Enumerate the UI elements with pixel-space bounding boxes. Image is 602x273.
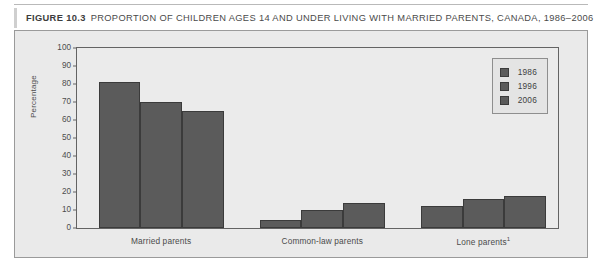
plot-inner: Percentage 100 90 80 70 60 50 40 30 20 [77,48,558,228]
y-tick-label: 20 [41,188,77,196]
bar-1996[interactable] [463,199,505,228]
bar-1996[interactable] [301,210,343,228]
bar-groups: Married parents Common-law parents [77,48,558,228]
x-axis-label-text: Lone parents [457,237,507,247]
x-axis-label-footnote: 1 [507,236,511,242]
x-axis-label-lone-parents: Lone parents1 [421,236,546,247]
bar-group-married-parents: Married parents [99,48,224,228]
bar-group-common-law-parents: Common-law parents [260,48,385,228]
y-tick-label: 40 [41,152,77,160]
legend-label: 1986 [518,67,537,77]
bar-2006[interactable] [182,111,224,228]
y-tick-label: 80 [41,80,77,88]
legend-item-1986[interactable]: 1986 [500,65,537,79]
bar-2006[interactable] [343,203,385,228]
y-tick-label: 50 [41,134,77,142]
x-axis-label-text: Married parents [131,236,191,246]
legend-swatch-icon [500,82,509,91]
legend-item-2006[interactable]: 2006 [500,93,537,107]
x-axis-label-married-parents: Married parents [99,236,224,246]
bar-1986[interactable] [99,82,141,228]
top-divider [14,4,588,5]
x-axis-label-common-law-parents: Common-law parents [260,236,385,246]
legend-label: 2006 [518,95,537,105]
chart-panel: Percentage 100 90 80 70 60 50 40 30 20 [14,30,588,258]
figure-number: FIGURE 10.3 [26,13,86,23]
figure-container: FIGURE 10.3 PROPORTION OF CHILDREN AGES … [0,0,602,273]
legend-item-1996[interactable]: 1996 [500,79,537,93]
y-tick-label: 90 [41,62,77,70]
y-tick-label: 100 [41,44,77,52]
bar-1986[interactable] [260,220,302,228]
y-tick-label: 0 [41,224,77,232]
x-axis-label-text: Common-law parents [282,236,364,246]
y-tick-label: 10 [41,206,77,214]
figure-title-bar: FIGURE 10.3 PROPORTION OF CHILDREN AGES … [14,8,591,28]
chart-legend: 1986 1996 2006 [492,58,548,114]
legend-label: 1996 [518,81,537,91]
plot-area: Percentage 100 90 80 70 60 50 40 30 20 [76,47,559,229]
y-axis-title: Percentage [29,75,38,118]
bar-1996[interactable] [140,102,182,228]
bar-1986[interactable] [421,206,463,228]
legend-swatch-icon [500,68,509,77]
y-tick-label: 70 [41,98,77,106]
y-tick-label: 60 [41,116,77,124]
y-tick-label: 30 [41,170,77,178]
legend-swatch-icon [500,96,509,105]
bar-2006[interactable] [504,196,546,228]
figure-title: PROPORTION OF CHILDREN AGES 14 AND UNDER… [91,13,594,23]
